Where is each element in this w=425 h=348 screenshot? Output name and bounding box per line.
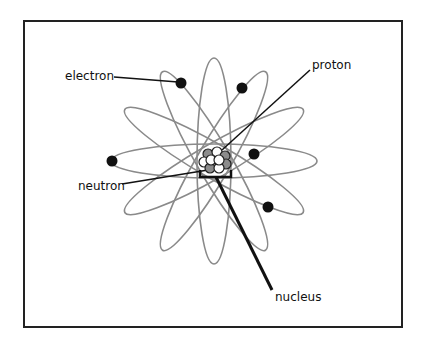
electron-dot xyxy=(263,202,274,213)
nucleus-leader-line xyxy=(216,177,272,290)
nucleus-label: nucleus xyxy=(275,291,321,303)
neutron-particle xyxy=(214,155,224,165)
electron-dot xyxy=(107,156,118,167)
electron-leader-line xyxy=(114,77,178,82)
nucleus-icon xyxy=(199,147,231,173)
electron-dot xyxy=(176,78,187,89)
atom-diagram xyxy=(0,0,425,348)
electron-label: electron xyxy=(65,70,114,82)
proton-label: proton xyxy=(312,59,351,71)
electron-dot xyxy=(237,83,248,94)
proton-leader-line xyxy=(222,70,310,150)
electron-dot xyxy=(249,149,260,160)
neutron-label: neutron xyxy=(78,180,125,192)
